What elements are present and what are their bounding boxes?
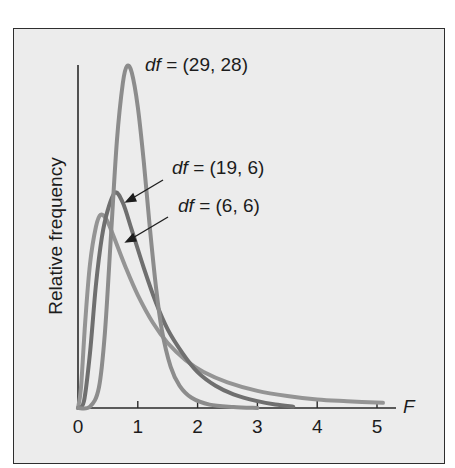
label-df-6-6: df = (6, 6) [178, 195, 260, 216]
label-df-29-28: df = (29, 28) [145, 54, 248, 75]
arrow-head-19-6 [126, 194, 136, 202]
f-distribution-chart: 012345 df = (29, 28) df = (19, 6) df = (… [0, 0, 455, 468]
curve-29-28 [78, 65, 257, 408]
curve-6-6 [78, 214, 383, 408]
x-tick-label: 2 [192, 416, 203, 437]
label-df-19-6: df = (19, 6) [172, 157, 264, 178]
x-tick-label: 0 [73, 416, 84, 437]
x-tick-label: 4 [312, 416, 323, 437]
x-tick-label: 1 [133, 416, 144, 437]
x-tick-label: 3 [252, 416, 263, 437]
x-tick-label: 5 [372, 416, 383, 437]
y-axis-label: Relative frequency [45, 157, 66, 315]
x-axis-label: F [403, 396, 416, 417]
curves [78, 65, 383, 408]
